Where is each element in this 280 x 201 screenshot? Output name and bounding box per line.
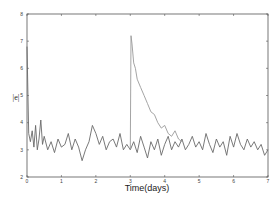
line-chart: 01234567 2345678 Time(days) |e| bbox=[0, 0, 280, 201]
y-tick-label: 5 bbox=[20, 92, 23, 98]
x-axis-label: Time(days) bbox=[125, 183, 170, 193]
x-tick-label: 2 bbox=[94, 178, 97, 184]
y-tick-label: 4 bbox=[20, 119, 23, 125]
y-axis-label: |e| bbox=[13, 93, 20, 102]
x-tick-label: 5 bbox=[198, 178, 201, 184]
y-tick-label: 3 bbox=[20, 147, 23, 153]
x-tick-label: 6 bbox=[232, 178, 235, 184]
x-tick-label: 0 bbox=[26, 178, 29, 184]
y-tick-label: 6 bbox=[20, 65, 23, 71]
x-tick-label: 1 bbox=[60, 178, 63, 184]
y-tick-label: 7 bbox=[20, 38, 23, 44]
y-tick-label: 8 bbox=[20, 11, 23, 17]
plot-area bbox=[27, 14, 268, 177]
y-tick-label: 2 bbox=[20, 174, 23, 180]
x-tick-label: 7 bbox=[267, 178, 270, 184]
